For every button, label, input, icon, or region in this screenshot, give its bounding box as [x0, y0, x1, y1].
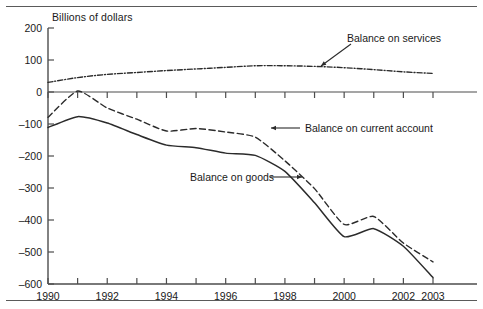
zero-line-ticks — [48, 92, 433, 98]
arrow-to-balance-on-current-account — [271, 126, 300, 130]
series-line-balance-on-goods — [48, 117, 433, 278]
y-axis-ticks — [48, 28, 54, 284]
arrow-to-balance-on-services — [321, 44, 351, 66]
arrow-to-balance-on-goods — [270, 175, 302, 179]
series-label-balance-on-services: Balance on services — [347, 33, 441, 44]
x-axis-ticks — [48, 278, 433, 284]
series-label-balance-on-current-account: Balance on current account — [305, 123, 433, 134]
series-line-balance-on-services — [48, 66, 433, 83]
plot-area — [0, 0, 483, 309]
axis-lines — [48, 28, 477, 284]
chart-figure: Billions of dollars 2001000–100–200–300–… — [0, 0, 483, 309]
series-label-balance-on-goods: Balance on goods — [190, 172, 274, 183]
